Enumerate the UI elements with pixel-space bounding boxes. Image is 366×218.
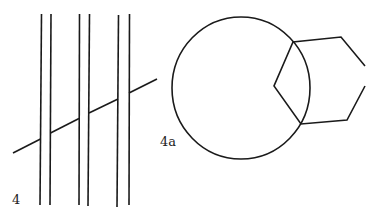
- polygon-shape: [274, 37, 365, 124]
- circle-shape: [172, 17, 310, 159]
- figure-label-4: 4: [12, 192, 20, 207]
- figure-label-4a: 4a: [160, 134, 176, 149]
- figure-4a: [172, 17, 365, 159]
- figure-canvas: [0, 0, 366, 218]
- figure-4-vertical-lines: [40, 14, 130, 207]
- figure-4-diagonal-segments: [13, 79, 157, 153]
